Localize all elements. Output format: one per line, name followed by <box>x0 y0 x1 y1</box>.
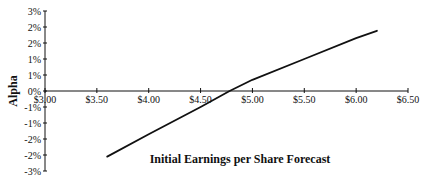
x-tick-label: $5.50 <box>293 94 316 105</box>
alpha-vs-eps-chart: 3%2%2%1%1%0%-1%-1%-2%-2%-3% $3.00$3.50$4… <box>0 0 424 183</box>
y-axis: 3%2%2%1%1%0%-1%-1%-2%-2%-3% <box>24 6 47 177</box>
y-tick-label: 3% <box>28 6 41 17</box>
y-tick-label: -1% <box>24 118 41 129</box>
y-axis-title: Alpha <box>6 75 20 106</box>
y-tick-label: -3% <box>24 166 41 177</box>
x-tick-label: $3.00 <box>34 94 57 105</box>
y-tick-label: 1% <box>28 54 41 65</box>
y-tick-label: -2% <box>24 150 41 161</box>
x-axis: $3.00$3.50$4.00$4.50$5.00$5.50$6.00$6.50 <box>34 88 420 105</box>
y-tick-label: -2% <box>24 134 41 145</box>
y-tick-label: 2% <box>28 38 41 49</box>
x-tick-label: $5.00 <box>241 94 264 105</box>
x-axis-title: Initial Earnings per Share Forecast <box>150 152 331 166</box>
y-tick-label: 2% <box>28 22 41 33</box>
y-tick-label: 1% <box>28 70 41 81</box>
x-tick-label: $4.00 <box>137 94 160 105</box>
x-tick-label: $3.50 <box>86 94 109 105</box>
x-tick-label: $6.00 <box>345 94 368 105</box>
x-tick-label: $6.50 <box>397 94 420 105</box>
